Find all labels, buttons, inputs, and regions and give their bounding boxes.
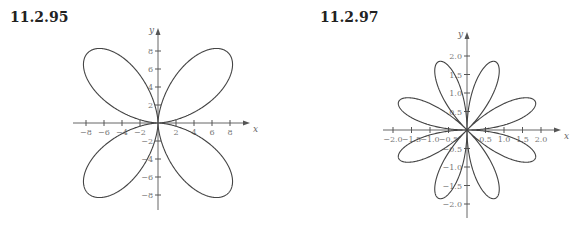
x-axis-label: x	[564, 131, 569, 141]
polar-plot-four-leaf: xy−8−6−4−22468−8−6−4−22468	[73, 25, 258, 210]
x-tick-label: 2.0	[535, 135, 548, 144]
x-arrow-icon	[243, 121, 250, 126]
x-tick-label: −8	[80, 128, 92, 137]
y-tick-label: 6	[148, 65, 153, 74]
y-tick-label: −1.0	[443, 163, 462, 172]
x-tick-label: 2	[173, 128, 178, 137]
polar-plot-eight-petal-rose: xy−2.0−1.5−1.0−0.50.51.01.52.0−2.0−1.5−1…	[383, 29, 569, 218]
y-tick-label: −8	[141, 191, 153, 200]
x-arrow-icon	[554, 128, 561, 133]
plots-canvas: xy−8−6−4−22468−8−6−4−22468 xy−2.0−1.5−1.…	[0, 0, 587, 229]
x-tick-label: −1.0	[420, 135, 439, 144]
x-tick-label: −2.0	[383, 135, 402, 144]
y-tick-label: 2	[148, 101, 153, 110]
y-tick-label: −2	[141, 137, 153, 146]
x-tick-label: 6	[209, 128, 214, 137]
y-tick-label: 1.5	[449, 71, 462, 80]
y-tick-label: −0.5	[443, 145, 462, 154]
y-tick-label: 2.0	[449, 52, 462, 61]
y-arrow-icon	[465, 32, 470, 39]
y-tick-label: −6	[141, 173, 153, 182]
y-tick-label: 8	[148, 47, 153, 56]
x-tick-label: −2	[134, 128, 146, 137]
y-arrow-icon	[156, 28, 161, 35]
y-tick-label: 1.0	[449, 89, 462, 98]
y-axis-label: y	[148, 25, 155, 35]
x-tick-label: −6	[98, 128, 110, 137]
x-axis-label: x	[253, 124, 258, 134]
x-tick-label: 8	[227, 128, 232, 137]
y-tick-label: −2.0	[443, 200, 462, 209]
y-axis-label: y	[457, 29, 464, 39]
